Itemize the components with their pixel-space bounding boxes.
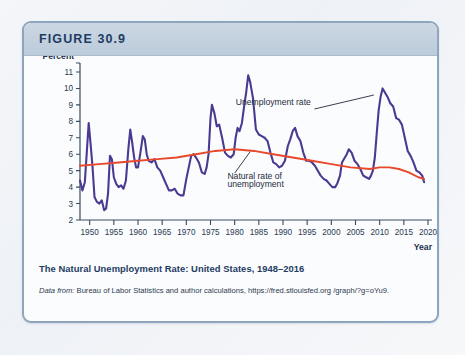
- x-tick-label: 2005: [346, 228, 365, 237]
- x-tick-label: 2020: [419, 228, 438, 237]
- x-tick-label: 2010: [371, 228, 390, 237]
- x-tick-label: 1980: [226, 228, 245, 237]
- textbook-page: ipply Effects and Stagflation tural rate…: [0, 0, 465, 355]
- y-tick-label: 6: [68, 150, 73, 159]
- figure-label: FIGURE 30.9: [39, 32, 126, 46]
- figure-source-note: Data from: Bureau of Labor Statistics an…: [39, 285, 431, 296]
- x-tick-label: 1955: [105, 228, 124, 237]
- figure-caption: The Natural Unemployment Rate: United St…: [39, 263, 429, 274]
- x-tick-label: 1970: [177, 228, 196, 237]
- figure-card: FIGURE 30.9 2345678910111950195519601965…: [22, 21, 439, 323]
- y-tick-label: 10: [64, 84, 74, 93]
- y-tick-label: 9: [68, 101, 73, 110]
- axis-labels: 2345678910111950195519601965197019751980…: [42, 56, 437, 252]
- chart-annotation-label: unemployment: [227, 179, 284, 189]
- x-tick-label: 2000: [322, 228, 341, 237]
- x-tick-label: 1985: [250, 228, 269, 237]
- x-tick-label: 1975: [201, 228, 220, 237]
- y-tick-label: 3: [68, 200, 73, 209]
- source-body: Bureau of Labor Statistics and author ca…: [74, 286, 389, 295]
- unemployment-line-chart: 2345678910111950195519601965197019751980…: [24, 56, 439, 258]
- x-tick-label: 1965: [153, 228, 172, 237]
- source-prefix: Data from:: [39, 286, 74, 295]
- y-tick-label: 4: [68, 183, 73, 192]
- x-tick-label: 1990: [274, 228, 293, 237]
- unemployment-leader-line: [314, 95, 373, 109]
- y-tick-label: 2: [68, 216, 73, 225]
- x-tick-label: 1995: [298, 228, 317, 237]
- chart-plot-area: 2345678910111950195519601965197019751980…: [24, 56, 439, 258]
- x-tick-label: 1960: [129, 228, 148, 237]
- x-tick-label: 2015: [395, 228, 414, 237]
- chart-annotation-label: Unemployment rate: [236, 97, 311, 107]
- y-tick-label: 11: [65, 68, 74, 77]
- x-axis-title: Year: [414, 242, 433, 252]
- y-tick-label: 8: [68, 117, 73, 126]
- y-tick-label: 5: [68, 167, 73, 176]
- x-tick-label: 1950: [81, 228, 100, 237]
- y-tick-label: 7: [68, 134, 73, 143]
- y-axis-title: Percent: [42, 56, 74, 61]
